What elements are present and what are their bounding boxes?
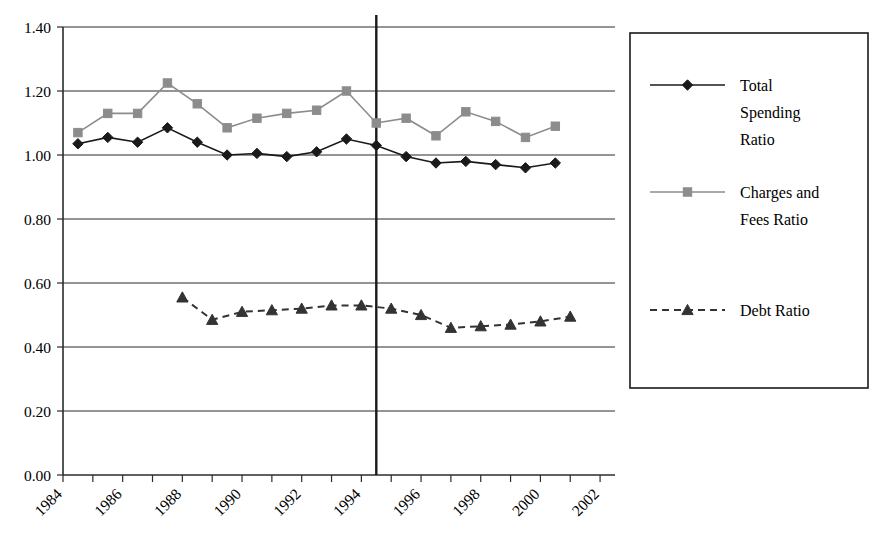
series-0-point-13-marker-diamond bbox=[461, 156, 471, 166]
series-0-point-1-marker-diamond bbox=[103, 132, 113, 142]
series-2-point-0-marker-triangle bbox=[177, 292, 188, 302]
series-0-point-4-marker-diamond bbox=[192, 137, 202, 147]
y-axis-tick-label: 0.60 bbox=[24, 275, 51, 292]
x-axis-tick-label: 2000 bbox=[509, 485, 543, 519]
series-2-point-9-marker-triangle bbox=[445, 322, 456, 332]
series-0-point-3-marker-diamond bbox=[162, 123, 172, 133]
series-0-point-5-marker-diamond bbox=[222, 150, 232, 160]
series-1-point-14-marker-square bbox=[491, 117, 499, 125]
y-axis-tick-label: 0.80 bbox=[24, 211, 51, 228]
legend-label-0: Spending bbox=[740, 104, 800, 122]
x-axis-tick-label: 1984 bbox=[31, 485, 65, 519]
series-0-point-16-marker-diamond bbox=[550, 158, 560, 168]
series-1-point-6-marker-square bbox=[253, 114, 261, 122]
series-1-point-11-marker-square bbox=[402, 114, 410, 122]
x-axis-tick-label: 1988 bbox=[151, 485, 185, 519]
x-axis-tick-label: 1986 bbox=[91, 485, 125, 519]
series-1-point-7-marker-square bbox=[283, 109, 291, 117]
line-chart-canvas: 0.000.200.400.600.801.001.201.4019841986… bbox=[0, 0, 882, 548]
series-0-point-15-marker-diamond bbox=[520, 163, 530, 173]
series-0-point-2-marker-diamond bbox=[132, 137, 142, 147]
series-1-point-9-marker-square bbox=[342, 87, 350, 95]
series-1-point-0-marker-square bbox=[74, 128, 82, 136]
series-1-point-8-marker-square bbox=[312, 106, 320, 114]
series-1-point-4-marker-square bbox=[193, 100, 201, 108]
legend-label-0: Total bbox=[740, 77, 773, 94]
legend-label-0: Ratio bbox=[740, 131, 775, 148]
chart-figure: 0.000.200.400.600.801.001.201.4019841986… bbox=[0, 0, 882, 548]
y-axis-tick-label: 1.00 bbox=[24, 147, 51, 164]
legend-label-2: Debt Ratio bbox=[740, 302, 810, 319]
series-1-point-13-marker-square bbox=[462, 108, 470, 116]
series-0-point-9-marker-diamond bbox=[341, 134, 351, 144]
series-0-point-0-marker-diamond bbox=[73, 139, 83, 149]
series-1-point-16-marker-square bbox=[551, 122, 559, 130]
series-0-point-10-marker-diamond bbox=[371, 140, 381, 150]
x-axis-tick-label: 1990 bbox=[210, 485, 244, 519]
series-2-point-7-marker-triangle bbox=[386, 303, 397, 313]
x-axis-tick-label: 2002 bbox=[568, 485, 602, 519]
y-axis-tick-label: 0.20 bbox=[24, 403, 51, 420]
legend-sample-1-marker-square bbox=[683, 188, 691, 196]
series-0-point-7-marker-diamond bbox=[282, 151, 292, 161]
series-0-point-14-marker-diamond bbox=[490, 159, 500, 169]
x-axis-tick-label: 1998 bbox=[449, 485, 483, 519]
legend-label-1: Charges and bbox=[740, 184, 819, 202]
series-0-point-12-marker-diamond bbox=[431, 158, 441, 168]
y-axis-tick-label: 0.00 bbox=[24, 467, 51, 484]
x-axis-tick-label: 1994 bbox=[330, 485, 364, 519]
series-1-point-1-marker-square bbox=[104, 109, 112, 117]
series-1-point-2-marker-square bbox=[133, 109, 141, 117]
series-1-point-10-marker-square bbox=[372, 119, 380, 127]
legend-label-1: Fees Ratio bbox=[740, 211, 808, 228]
series-1-point-3-marker-square bbox=[163, 79, 171, 87]
y-axis-tick-label: 0.40 bbox=[24, 339, 51, 356]
y-axis-tick-label: 1.40 bbox=[24, 19, 51, 36]
x-axis-tick-label: 1992 bbox=[270, 485, 304, 519]
series-1-point-12-marker-square bbox=[432, 132, 440, 140]
series-0-point-6-marker-diamond bbox=[252, 148, 262, 158]
series-2-point-13-marker-triangle bbox=[565, 311, 576, 321]
x-axis-tick-label: 1996 bbox=[389, 485, 423, 519]
series-0-point-11-marker-diamond bbox=[401, 151, 411, 161]
series-1-point-15-marker-square bbox=[521, 133, 529, 141]
y-axis-tick-label: 1.20 bbox=[24, 83, 51, 100]
series-1-point-5-marker-square bbox=[223, 124, 231, 132]
